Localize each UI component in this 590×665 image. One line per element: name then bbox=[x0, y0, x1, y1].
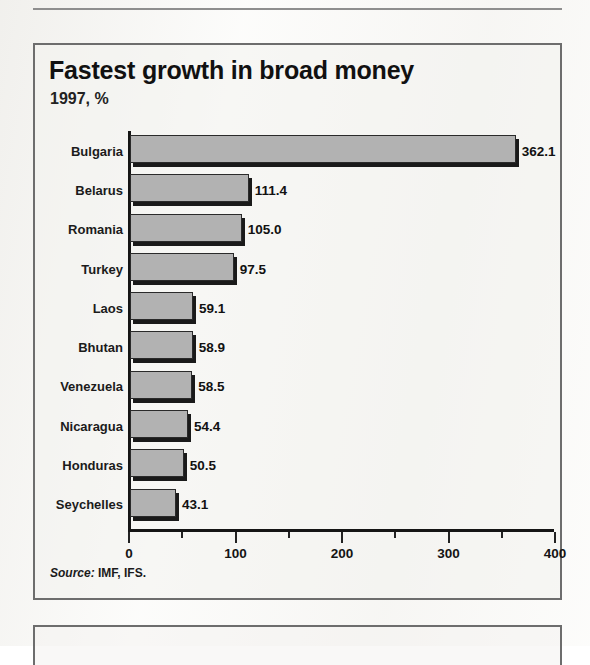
bar-rows: Bulgaria362.1Belarus111.4Romania105.0Tur… bbox=[35, 131, 564, 524]
bar-row: Romania105.0 bbox=[35, 210, 564, 249]
bar-value-label: 59.1 bbox=[199, 300, 225, 315]
x-tick-major bbox=[341, 532, 343, 543]
bar-fill bbox=[130, 135, 516, 163]
chart-panel: Fastest growth in broad money 1997, % Bu… bbox=[33, 43, 562, 600]
bar bbox=[130, 135, 516, 165]
bar-fill bbox=[130, 410, 188, 438]
bar-row: Belarus111.4 bbox=[35, 170, 564, 209]
source-label: Source: bbox=[50, 566, 95, 580]
category-label: Bhutan bbox=[78, 340, 123, 355]
bar-value-label: 54.4 bbox=[194, 418, 220, 433]
bar-value-label: 111.4 bbox=[255, 182, 287, 197]
bar-value-label: 58.9 bbox=[199, 340, 225, 355]
x-tick-label: 200 bbox=[331, 546, 354, 561]
bar-fill bbox=[130, 292, 193, 320]
category-label: Romania bbox=[68, 222, 123, 237]
bar-row: Turkey97.5 bbox=[35, 249, 564, 288]
category-label: Turkey bbox=[81, 261, 123, 276]
bar-value-label: 105.0 bbox=[248, 222, 282, 237]
category-label: Honduras bbox=[62, 458, 123, 473]
x-tick-minor bbox=[394, 532, 396, 538]
bar-row: Laos59.1 bbox=[35, 288, 564, 327]
bar bbox=[130, 214, 242, 244]
plot-area: Bulgaria362.1Belarus111.4Romania105.0Tur… bbox=[35, 45, 564, 602]
x-tick-label: 400 bbox=[544, 546, 567, 561]
category-label: Laos bbox=[93, 300, 123, 315]
bar bbox=[130, 449, 184, 479]
bar-row: Bulgaria362.1 bbox=[35, 131, 564, 170]
bar-fill bbox=[130, 174, 249, 202]
x-tick-label: 0 bbox=[125, 546, 133, 561]
x-tick-major bbox=[235, 532, 237, 543]
bar-value-label: 50.5 bbox=[190, 458, 216, 473]
bar bbox=[130, 371, 192, 401]
category-label: Bulgaria bbox=[71, 143, 123, 158]
x-tick-major bbox=[128, 532, 130, 543]
bar bbox=[130, 331, 193, 361]
bar-value-label: 362.1 bbox=[522, 143, 556, 158]
category-label: Nicaragua bbox=[60, 418, 123, 433]
bar bbox=[130, 174, 249, 204]
x-tick-minor bbox=[501, 532, 503, 538]
bar-row: Venezuela58.5 bbox=[35, 367, 564, 406]
x-tick-minor bbox=[181, 532, 183, 538]
bar-fill bbox=[130, 371, 192, 399]
next-chart-panel bbox=[33, 625, 562, 665]
category-label: Venezuela bbox=[60, 379, 123, 394]
source-note: Source: IMF, IFS. bbox=[50, 566, 146, 580]
bar bbox=[130, 489, 176, 519]
bar bbox=[130, 410, 188, 440]
bar-row: Nicaragua54.4 bbox=[35, 406, 564, 445]
bar bbox=[130, 253, 234, 283]
x-tick-label: 100 bbox=[224, 546, 247, 561]
bar-value-label: 58.5 bbox=[198, 379, 224, 394]
bar bbox=[130, 292, 193, 322]
bar-value-label: 43.1 bbox=[182, 497, 208, 512]
x-tick-minor bbox=[288, 532, 290, 538]
bar-value-label: 97.5 bbox=[240, 261, 266, 276]
bar-fill bbox=[130, 449, 184, 477]
category-label: Seychelles bbox=[56, 497, 123, 512]
bar-fill bbox=[130, 331, 193, 359]
x-tick-label: 300 bbox=[437, 546, 460, 561]
category-label: Belarus bbox=[75, 182, 123, 197]
bar-row: Bhutan58.9 bbox=[35, 327, 564, 366]
source-agencies: IMF, IFS. bbox=[98, 566, 146, 580]
bar-fill bbox=[130, 214, 242, 242]
x-tick-major bbox=[554, 532, 556, 543]
bar-fill bbox=[130, 253, 234, 281]
x-tick-major bbox=[448, 532, 450, 543]
bar-row: Seychelles43.1 bbox=[35, 485, 564, 524]
page-top-rule bbox=[33, 8, 562, 10]
bar-row: Honduras50.5 bbox=[35, 445, 564, 484]
bar-fill bbox=[130, 489, 176, 517]
x-axis-ticks: 0100200300400 bbox=[128, 532, 554, 568]
